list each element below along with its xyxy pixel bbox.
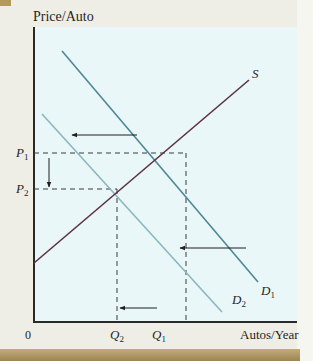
x-axis-title: Autos/Year xyxy=(240,327,299,342)
p1-label: P1 xyxy=(15,145,28,162)
d1-label-main: D xyxy=(260,283,271,298)
d1-label-sub: 1 xyxy=(270,290,275,300)
q1-label: Q1 xyxy=(152,327,166,344)
y-axis-title: Price/Auto xyxy=(33,9,94,24)
p1-label-main: P xyxy=(15,145,24,160)
d2-label-main: D xyxy=(231,292,242,307)
p1-label-sub: 1 xyxy=(24,152,29,162)
q1-label-sub: 1 xyxy=(161,334,166,344)
supply-label: S xyxy=(252,66,259,81)
p2-label-main: P xyxy=(15,181,24,196)
p2-label: P2 xyxy=(15,181,28,198)
supply-demand-chart: Price/Auto S D1 D2 P1 P2 Q2 Q1 0 Autos/Y… xyxy=(0,0,313,361)
d2-label-sub: 2 xyxy=(241,299,246,309)
q2-label-sub: 2 xyxy=(119,334,124,344)
origin-label: 0 xyxy=(25,328,31,342)
p2-label-sub: 2 xyxy=(24,188,29,198)
q2-label: Q2 xyxy=(110,327,124,344)
